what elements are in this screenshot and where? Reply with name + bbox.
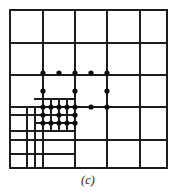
data-point [72,104,77,109]
data-point [40,88,45,93]
data-point [64,104,69,109]
data-point [56,104,61,109]
data-point [40,120,45,125]
data-point [40,112,45,117]
data-point [72,112,77,117]
data-point [88,104,93,109]
figure-panel: (c) [0,0,176,195]
data-point [72,120,77,125]
data-point [64,120,69,125]
data-point [56,70,61,75]
data-point [56,112,61,117]
data-point [88,70,93,75]
data-point [72,70,77,75]
data-point [104,88,109,93]
data-point [48,104,53,109]
data-point [72,88,77,93]
data-point [40,104,45,109]
data-point [104,70,109,75]
data-point [56,120,61,125]
figure-caption: (c) [0,173,176,188]
base-grid-lines [10,10,167,168]
data-point [48,120,53,125]
grid-decomposition-diagram [0,0,176,195]
data-point [40,70,45,75]
data-point [104,104,109,109]
